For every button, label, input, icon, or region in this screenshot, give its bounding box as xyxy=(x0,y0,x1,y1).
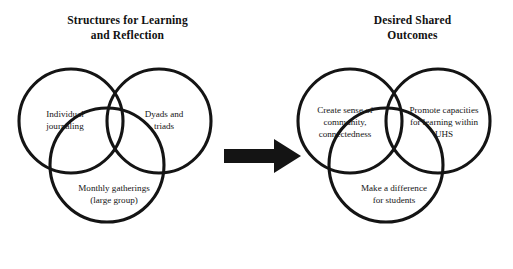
right-group-title-line-2: Outcomes xyxy=(330,28,495,43)
right-venn-circles xyxy=(293,55,506,255)
left-group-title-line-2: and Reflection xyxy=(30,28,225,43)
diagram-canvas: Structures for Learning and Reflection D… xyxy=(0,0,513,269)
right-group-title: Desired Shared Outcomes xyxy=(330,13,495,43)
right-group-title-line-1: Desired Shared xyxy=(330,13,495,28)
left-venn-circles xyxy=(14,55,227,255)
left-group-title: Structures for Learning and Reflection xyxy=(30,13,225,43)
left-group-title-line-1: Structures for Learning xyxy=(30,13,225,28)
right-arrow-icon xyxy=(224,138,302,174)
left-venn-diagram: Individual journaling Dyads and triads M… xyxy=(14,55,227,255)
arrow-shape xyxy=(224,139,301,173)
right-venn-diagram: Create sense of community, connectedness… xyxy=(293,55,506,255)
